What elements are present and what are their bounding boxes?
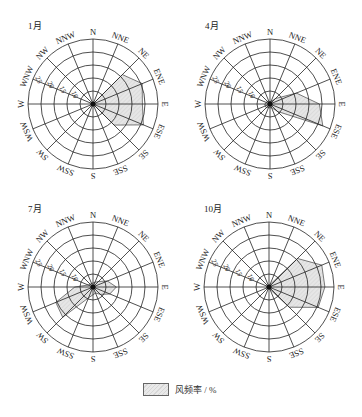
direction-label-w: W (193, 100, 203, 108)
direction-label-nne: NNE (111, 30, 131, 46)
direction-label-n: N (90, 27, 96, 37)
direction-label-nne: NNE (287, 213, 307, 229)
ring-label: 25 (209, 258, 219, 268)
direction-label-wsw: WSW (195, 120, 212, 143)
ring-label: 15 (57, 85, 67, 95)
center-dot (267, 101, 272, 106)
center-dot (90, 284, 95, 289)
direction-label-ssw: SSW (55, 163, 75, 179)
direction-label-nne: NNE (288, 30, 308, 46)
ring-label: 20 (45, 80, 55, 90)
ring-label: 15 (57, 268, 67, 278)
direction-label-nnw: NNW (230, 212, 253, 229)
ring-label: 20 (221, 263, 231, 273)
direction-label-ene: ENE (329, 67, 345, 86)
ring-label: 15 (234, 85, 244, 95)
panel-oct: 10月10152025NNNENEENEEESESESSESSSWSWWSWWW… (192, 204, 346, 364)
direction-label-nnw: NNW (231, 29, 254, 46)
ring-label: 15 (233, 268, 243, 278)
direction-label-n: N (266, 210, 272, 220)
direction-label-wnw: WNW (18, 247, 36, 271)
ring-label: 10 (246, 90, 256, 100)
ring-label: 25 (33, 258, 43, 268)
ring-label: 25 (210, 75, 220, 85)
direction-label-e: E (336, 284, 346, 289)
panel-jan: 1月10152025NNNENEENEEESESESSESSSWSWWSWWWN… (16, 21, 170, 181)
center-dot (90, 101, 95, 106)
direction-label-n: N (267, 27, 273, 37)
legend: 风频率 / % (143, 383, 217, 396)
wind-rose-figure: 1月10152025NNNENEENEEESESESSESSSWSWWSWWWN… (0, 0, 362, 417)
direction-label-e: E (337, 101, 347, 106)
panel-title: 1月 (28, 21, 42, 31)
direction-label-ene: ENE (152, 250, 168, 269)
direction-label-w: W (16, 283, 26, 291)
panel-title: 4月 (205, 21, 219, 31)
wind-frequency-polygon (265, 93, 323, 126)
direction-label-e: E (160, 284, 170, 289)
direction-label-wsw: WSW (194, 303, 211, 326)
direction-label-wnw: WNW (195, 64, 213, 88)
direction-label-ene: ENE (328, 250, 344, 269)
direction-label-wsw: WSW (18, 303, 35, 326)
direction-label-ene: ENE (152, 67, 168, 86)
legend-swatch (143, 383, 169, 396)
center-dot (266, 284, 271, 289)
direction-label-w: W (192, 283, 202, 291)
panel-apr: 4月10152025NNNENEENEEESESESSESSSWSWWSWWWN… (193, 21, 347, 181)
direction-label-e: E (160, 101, 170, 106)
direction-label-nne: NNE (111, 213, 131, 229)
direction-label-s: S (90, 171, 95, 181)
direction-label-s: S (266, 354, 271, 364)
panel-jul: 7月10152025NNNENEENEEESESESSESSSWSWWSWWWN… (16, 204, 170, 364)
direction-label-ssw: SSW (231, 346, 251, 362)
direction-label-s: S (90, 354, 95, 364)
panel-title: 7月 (28, 204, 42, 214)
direction-label-ssw: SSW (55, 346, 75, 362)
ring-label: 20 (222, 80, 232, 90)
direction-label-w: W (16, 100, 26, 108)
legend-label: 风频率 / % (175, 383, 217, 396)
direction-label-nnw: NNW (54, 29, 77, 46)
ring-label: 10 (245, 273, 255, 283)
wind-frequency-polygon (93, 75, 143, 126)
ring-label: 25 (33, 75, 43, 85)
direction-label-s: S (267, 171, 272, 181)
panel-title: 10月 (204, 204, 222, 214)
direction-label-wnw: WNW (194, 247, 212, 271)
direction-label-ssw: SSW (232, 163, 252, 179)
direction-label-nnw: NNW (54, 212, 77, 229)
direction-label-wnw: WNW (18, 64, 36, 88)
direction-label-wsw: WSW (18, 120, 35, 143)
ring-label: 20 (45, 263, 55, 273)
ring-label: 10 (69, 273, 79, 283)
ring-label: 10 (69, 90, 79, 100)
direction-label-n: N (90, 210, 96, 220)
